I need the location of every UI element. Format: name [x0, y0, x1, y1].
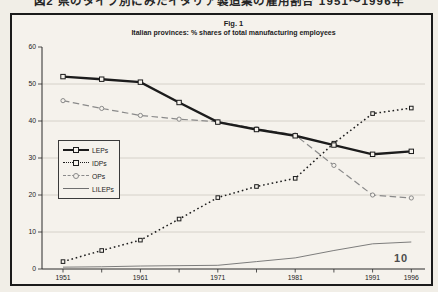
marker-OPs-1961 — [138, 113, 142, 117]
marker-OPs-1991 — [371, 193, 375, 197]
clipped-japanese-caption: 図2 県のタイプ別にみたイタリア製造業の雇用割合 1951〜1996年 — [0, 0, 438, 6]
legend-label: LILEPs — [92, 186, 114, 193]
legend-item-lileps: LILEPs — [63, 183, 119, 195]
series-line-LILEPs — [63, 242, 411, 267]
marker-OPs-1966 — [177, 117, 181, 121]
marker-LEPs-1961 — [138, 80, 142, 84]
lileps-line-sample-icon — [63, 185, 89, 193]
marker-LEPs-1956 — [100, 77, 104, 81]
y-tick-label-30: 30 — [28, 154, 36, 161]
x-tick-label-1991: 1991 — [365, 274, 380, 281]
marker-IDPs-1996 — [410, 106, 414, 110]
y-tick-label-40: 40 — [28, 117, 36, 124]
legend-item-ops: OPs — [63, 170, 119, 182]
marker-IDPs-1961 — [139, 238, 143, 242]
y-tick-label-60: 60 — [28, 43, 36, 50]
y-tick-label-50: 50 — [28, 80, 36, 87]
marker-LEPs-1991 — [370, 152, 374, 156]
legend-label: OPs — [92, 173, 105, 180]
marker-IDPs-1951 — [61, 260, 65, 264]
leps-line-sample-icon — [63, 146, 89, 154]
marker-IDPs-1966 — [177, 217, 181, 221]
y-tick-label-20: 20 — [28, 191, 36, 198]
legend-label: LEPs — [92, 147, 108, 154]
marker-OPs-1951 — [61, 99, 65, 103]
marker-LEPs-1986 — [332, 143, 336, 147]
marker-LEPs-1971 — [216, 120, 220, 124]
legend-item-leps: LEPs — [63, 144, 119, 156]
x-tick-label-1961: 1961 — [133, 274, 148, 281]
marker-IDPs-1976 — [255, 185, 259, 189]
marker-LEPs-1976 — [254, 127, 258, 131]
x-tick-label-1996: 1996 — [404, 274, 419, 281]
marker-IDPs-1971 — [216, 196, 220, 200]
marker-IDPs-1956 — [100, 249, 104, 253]
marker-LEPs-1951 — [61, 74, 65, 78]
marker-IDPs-1981 — [293, 177, 297, 181]
marker-LEPs-1981 — [293, 134, 297, 138]
y-tick-label-0: 0 — [32, 265, 36, 272]
idps-line-sample-icon — [63, 159, 89, 167]
chart-legend: LEPs IDPs OPs LILEPs — [58, 140, 120, 199]
page-number: 10 — [394, 252, 424, 264]
marker-LEPs-1996 — [409, 149, 413, 153]
chart-title: Fig. 1 — [52, 19, 415, 28]
marker-OPs-1996 — [409, 196, 413, 200]
x-tick-label-1951: 1951 — [55, 274, 70, 281]
y-tick-label-10: 10 — [28, 228, 36, 235]
x-tick-label-1971: 1971 — [210, 274, 225, 281]
legend-item-idps: IDPs — [63, 157, 119, 169]
figure-frame: 0102030405060195119611971198119911996 Fi… — [10, 13, 433, 286]
chart-subtitle: Italian provinces: % shares of total man… — [42, 28, 425, 37]
legend-label: IDPs — [92, 160, 107, 167]
ops-line-sample-icon — [63, 172, 89, 180]
x-tick-label-1981: 1981 — [288, 274, 303, 281]
marker-OPs-1956 — [100, 106, 104, 110]
marker-OPs-1986 — [332, 163, 336, 167]
marker-LEPs-1966 — [177, 100, 181, 104]
marker-IDPs-1991 — [371, 112, 375, 116]
